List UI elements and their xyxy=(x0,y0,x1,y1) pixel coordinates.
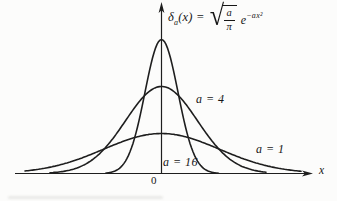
radical-sign-icon: √ xyxy=(209,4,223,27)
x-axis-label: x xyxy=(319,164,325,176)
origin-label: 0 xyxy=(151,174,157,186)
curve-label-a1: a = 1 xyxy=(256,142,285,157)
delta-function-figure: δa(x) = √ a π e−ax² a = 4 a = 1 a = 16 0… xyxy=(0,0,337,201)
fraction-numerator: a xyxy=(224,8,235,21)
formula-args: (x) = xyxy=(178,10,204,24)
cropped-caption-artifact xyxy=(8,196,163,199)
radical: √ a π xyxy=(209,4,237,32)
formula-lhs: δa(x) = xyxy=(168,10,205,27)
gaussian-curve-a-4 xyxy=(50,87,266,173)
formula: δa(x) = √ a π e−ax² xyxy=(168,4,263,32)
exponential-term: e−ax² xyxy=(241,12,263,28)
exp-exponent: −ax² xyxy=(246,11,263,20)
fraction-denominator: π xyxy=(227,21,232,33)
curve-label-a16: a = 16 xyxy=(163,155,198,170)
curve-label-a4: a = 4 xyxy=(196,92,225,107)
fraction: a π xyxy=(224,8,235,32)
